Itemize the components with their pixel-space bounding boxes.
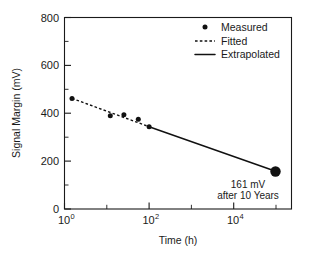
series-fitted-line <box>72 98 149 126</box>
y-axis-title: Signal Margin (mV) <box>10 68 22 158</box>
y-ticklabel-600: 600 <box>41 59 59 71</box>
x-ticklabel-1e4-exp: 4 <box>240 212 244 221</box>
endpoint-marker <box>270 166 280 176</box>
y-ticklabel-400: 400 <box>41 107 59 119</box>
datapoint <box>108 113 113 118</box>
x-ticklabel-1e2: 10 2 <box>143 212 160 227</box>
y-axis-ticks <box>65 18 72 210</box>
datapoint <box>70 96 75 101</box>
y-ticklabel-200: 200 <box>41 155 59 167</box>
x-axis-ticks <box>65 203 277 210</box>
x-ticklabel-1e2-exp: 2 <box>155 212 159 221</box>
legend-label-extrapolated: Extrapolated <box>221 48 280 60</box>
x-ticklabel-1e0: 10 0 <box>58 212 75 227</box>
y-ticklabel-800: 800 <box>41 12 59 24</box>
legend: Measured Fitted Extrapolated <box>195 21 280 61</box>
series-extrapolated-line <box>149 127 273 171</box>
endpoint-time-label: after 10 Years <box>217 190 279 201</box>
x-ticklabel-1e2-base: 10 <box>143 214 155 226</box>
x-ticklabel-1e0-base: 10 <box>58 214 70 226</box>
legend-label-measured: Measured <box>221 21 268 33</box>
endpoint-value-label: 161 mV <box>231 179 266 190</box>
x-ticklabel-1e4-base: 10 <box>227 214 239 226</box>
signal-margin-chart: 800 600 400 200 0 Signal Margin (mV) 10 … <box>0 0 309 257</box>
series-measured-points <box>70 96 152 129</box>
x-ticklabel-1e0-exp: 0 <box>71 212 75 221</box>
datapoint <box>147 124 152 129</box>
x-ticklabel-1e4: 10 4 <box>227 212 244 227</box>
x-axis-title: Time (h) <box>159 234 198 246</box>
datapoint <box>136 117 141 122</box>
legend-label-fitted: Fitted <box>221 35 247 47</box>
datapoint <box>121 112 126 117</box>
legend-marker-measured-icon <box>203 25 208 30</box>
plot-canvas: 800 600 400 200 0 Signal Margin (mV) 10 … <box>0 0 309 257</box>
